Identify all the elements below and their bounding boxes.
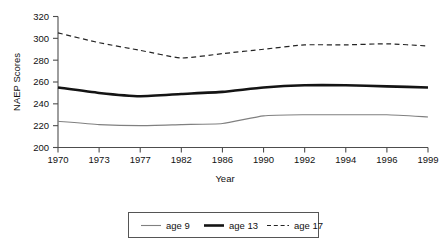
x-tick-label: 1994	[335, 154, 356, 165]
x-tick-label: 1999	[417, 154, 438, 165]
x-tick-label: 1990	[253, 154, 274, 165]
legend-label-age-13: age 13	[229, 220, 258, 231]
line-chart: 200220240260280300320 197019731977198219…	[0, 0, 445, 250]
series-group	[58, 33, 428, 126]
x-axis-title: Year	[215, 173, 234, 184]
legend-label-age-17: age 17	[294, 220, 323, 231]
y-tick-label: 200	[33, 142, 49, 153]
y-tick-label: 280	[33, 55, 49, 66]
y-tick-label: 240	[33, 98, 49, 109]
y-axis-ticks: 200220240260280300320	[33, 11, 58, 153]
y-axis-title: NAEP Scores	[11, 53, 22, 111]
x-tick-label: 1982	[171, 154, 192, 165]
y-tick-label: 320	[33, 11, 49, 22]
legend-entries: age 9age 13age 17	[141, 220, 323, 231]
y-tick-label: 220	[33, 120, 49, 131]
series-line-age-9	[58, 115, 428, 126]
x-tick-label: 1977	[130, 154, 151, 165]
y-tick-label: 260	[33, 76, 49, 87]
series-line-age-13	[58, 85, 428, 96]
legend-label-age-9: age 9	[166, 220, 190, 231]
series-line-age-17	[58, 33, 428, 58]
x-axis-ticks: 1970197319771982198619901992199419961999	[47, 148, 438, 166]
x-tick-label: 1996	[376, 154, 397, 165]
x-tick-label: 1986	[212, 154, 233, 165]
x-tick-label: 1970	[47, 154, 68, 165]
x-tick-label: 1992	[294, 154, 315, 165]
chart-figure: 200220240260280300320 197019731977198219…	[0, 0, 445, 250]
y-tick-label: 300	[33, 33, 49, 44]
x-tick-label: 1973	[89, 154, 110, 165]
